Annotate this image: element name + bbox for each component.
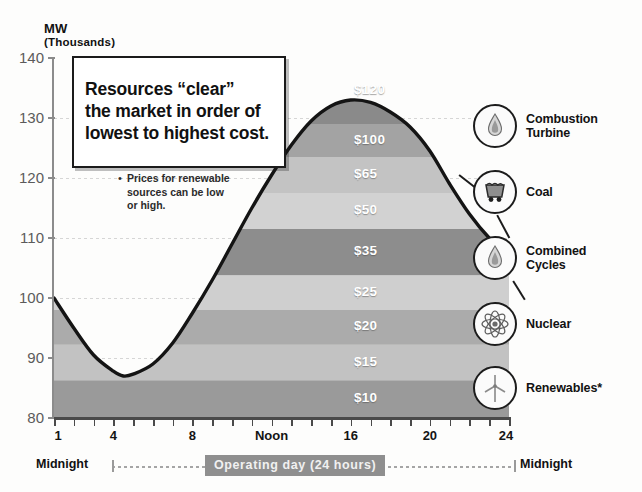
x-tick-mark (113, 418, 115, 426)
legend-item-renewables[interactable]: Renewables* (473, 366, 602, 410)
x-tick-mark (410, 418, 412, 426)
x-tick-mark (94, 418, 96, 426)
x-tick-label: 4 (110, 428, 117, 443)
legend-item-label: Combined Cycles (526, 244, 586, 272)
timeline-cap-left (112, 460, 114, 472)
y-tick-label: 80 (10, 409, 44, 426)
x-tick-mark (371, 418, 373, 426)
y-tick-label: 100 (10, 289, 44, 306)
y-tick-label: 110 (10, 229, 44, 246)
x-tick-label: 16 (344, 428, 358, 443)
x-tick-mark (54, 418, 56, 426)
flame-icon (473, 236, 517, 280)
legend: Combustion TurbineCoalCombined CyclesNuc… (473, 104, 642, 404)
coal-cart-icon (473, 170, 517, 214)
y-tick-label: 90 (10, 349, 44, 366)
y-tick-label: 130 (10, 109, 44, 126)
y-axis-title: MW (44, 22, 68, 37)
legend-item-combined-cycles[interactable]: Combined Cycles (473, 236, 586, 280)
x-tick-label: 8 (189, 428, 196, 443)
legend-item-label: Coal (526, 185, 553, 199)
timeline-cap-right (514, 460, 516, 472)
legend-item-nuclear[interactable]: Nuclear (473, 302, 571, 346)
x-tick-mark (351, 418, 353, 426)
price-band-label: $65 (354, 166, 377, 181)
x-tick-label: 24 (499, 428, 513, 443)
x-tick-label: 20 (423, 428, 437, 443)
legend-connector-line (512, 281, 526, 301)
price-band-label: $20 (354, 318, 377, 333)
price-band (54, 380, 509, 418)
footnote-text: Prices for renewable sources can be low … (118, 172, 302, 213)
price-band-label: $35 (354, 243, 377, 258)
x-tick-mark (390, 418, 392, 426)
price-band-label: $100 (354, 132, 385, 147)
legend-item-label: Renewables* (526, 381, 602, 395)
x-tick-mark (331, 418, 333, 426)
price-band (54, 310, 509, 345)
legend-item-combustion-turbine[interactable]: Combustion Turbine (473, 104, 598, 148)
price-band (54, 275, 509, 310)
x-tick-label: Noon (255, 428, 288, 443)
x-tick-mark (252, 418, 254, 426)
x-tick-mark (74, 418, 76, 426)
legend-item-coal[interactable]: Coal (473, 170, 553, 214)
atom-icon (473, 302, 517, 346)
x-tick-mark (450, 418, 452, 426)
x-tick-mark (232, 418, 234, 426)
y-tick-label: 140 (10, 49, 44, 66)
midnight-left-label: Midnight (36, 457, 88, 471)
legend-item-label: Nuclear (526, 317, 571, 331)
callout-box: Resources “clear” the market in order of… (72, 56, 286, 168)
callout-text: Resources “clear” the market in order of… (74, 79, 280, 144)
legend-item-label: Combustion Turbine (526, 112, 598, 140)
x-tick-mark (489, 418, 491, 426)
wind-turbine-icon (473, 366, 517, 410)
price-band-label: $50 (354, 202, 377, 217)
x-tick-mark (192, 418, 194, 426)
x-tick-mark (311, 418, 313, 426)
operating-day-timeline: Midnight Operating day (24 hours) Midnig… (0, 455, 642, 479)
x-tick-mark (509, 418, 511, 426)
price-band-label: $15 (354, 354, 377, 369)
operating-day-chip: Operating day (24 hours) (205, 455, 385, 476)
x-tick-mark (430, 418, 432, 426)
y-axis-subtitle: (Thousands) (44, 36, 115, 49)
x-tick-mark (153, 418, 155, 426)
chart-canvas: MW (Thousands) 1401301201101009080 $120$… (0, 0, 642, 492)
flame-icon (473, 104, 517, 148)
price-band-label: $25 (354, 284, 377, 299)
x-tick-mark (291, 418, 293, 426)
price-band (54, 229, 509, 275)
price-band-label: $120 (354, 82, 385, 97)
x-tick-mark (212, 418, 214, 426)
midnight-right-label: Midnight (520, 457, 572, 471)
x-tick-label: 1 (54, 428, 61, 443)
x-tick-mark (173, 418, 175, 426)
x-tick-mark (133, 418, 135, 426)
x-tick-mark (272, 418, 274, 426)
price-band-label: $10 (354, 390, 377, 405)
y-tick-label: 120 (10, 169, 44, 186)
x-tick-mark (469, 418, 471, 426)
x-axis-line (54, 417, 511, 420)
